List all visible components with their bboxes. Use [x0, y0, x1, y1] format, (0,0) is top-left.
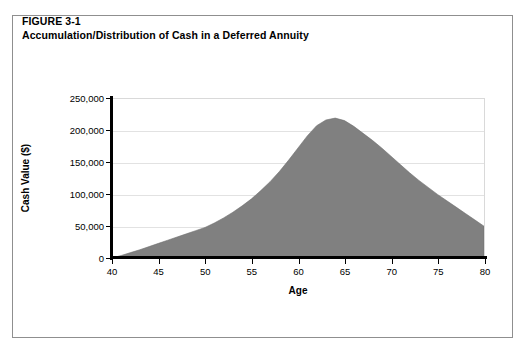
- y-axis-line: [110, 96, 113, 260]
- x-tick-label: 75: [433, 266, 444, 277]
- chart-plot-area: [112, 98, 485, 258]
- x-tick-mark: [112, 259, 113, 264]
- y-tick-mark: [106, 162, 111, 163]
- y-tick-labels-group: 050,000100,000150,000200,000250,000: [36, 0, 104, 355]
- x-tick-label: 45: [153, 266, 164, 277]
- x-tick-label: 55: [247, 266, 258, 277]
- y-tick-label: 0: [99, 253, 104, 264]
- y-tick-mark: [106, 130, 111, 131]
- x-tick-label: 40: [107, 266, 118, 277]
- y-tick-label: 100,000: [70, 189, 104, 200]
- x-tick-mark: [485, 259, 486, 264]
- x-tick-label: 50: [200, 266, 211, 277]
- y-tick-mark: [106, 194, 111, 195]
- y-tick-label: 150,000: [70, 157, 104, 168]
- y-axis-title: Cash Value ($): [20, 144, 31, 212]
- x-tick-label: 70: [386, 266, 397, 277]
- x-tick-mark: [345, 259, 346, 264]
- x-axis-title: Age: [289, 285, 308, 296]
- x-tick-label: 80: [480, 266, 491, 277]
- x-tick-mark: [299, 259, 300, 264]
- x-tick-mark: [159, 259, 160, 264]
- cash-value-area-path: [112, 118, 484, 258]
- x-tick-mark: [438, 259, 439, 264]
- x-tick-mark: [252, 259, 253, 264]
- x-tick-label: 65: [340, 266, 351, 277]
- x-tick-mark: [205, 259, 206, 264]
- y-tick-mark: [106, 226, 111, 227]
- area-chart-series: [112, 99, 484, 258]
- y-tick-label: 250,000: [70, 93, 104, 104]
- x-tick-label: 60: [293, 266, 304, 277]
- x-tick-mark: [392, 259, 393, 264]
- y-tick-label: 50,000: [75, 221, 104, 232]
- y-tick-mark: [106, 258, 111, 259]
- y-tick-label: 200,000: [70, 125, 104, 136]
- y-tick-mark: [106, 98, 111, 99]
